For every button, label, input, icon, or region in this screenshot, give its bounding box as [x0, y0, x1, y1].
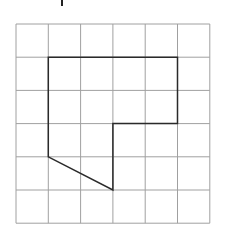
- grid-diagram: [0, 0, 228, 237]
